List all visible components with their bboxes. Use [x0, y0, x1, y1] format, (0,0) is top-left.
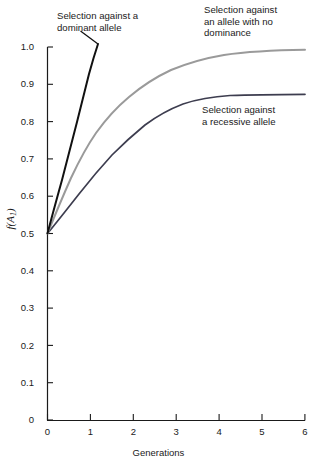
- y-tick-label-0.9: 0.9: [8, 79, 34, 89]
- x-tick-label-6: 6: [296, 427, 314, 437]
- figure-container: 1.0 0.9 0.8 0.7 0.6 0.5 0.4 0.3 0.2 0.1 …: [0, 0, 317, 469]
- x-tick-label-2: 2: [124, 427, 142, 437]
- x-axis-title: Generations: [0, 447, 317, 458]
- x-tick-label-1: 1: [81, 427, 99, 437]
- curve-dominant: [48, 44, 99, 234]
- y-tick-label-0.4: 0.4: [8, 266, 34, 276]
- annotation-dominant-allele: Selection against a dominant allele: [57, 10, 177, 33]
- x-axis-ticks: [48, 414, 305, 421]
- y-axis-title-close: ): [4, 208, 16, 212]
- y-axis-title-f: f: [4, 227, 16, 230]
- y-tick-label-0.2: 0.2: [8, 341, 34, 351]
- y-tick-label-1.0: 1.0: [8, 42, 34, 52]
- x-tick-label-4: 4: [210, 427, 228, 437]
- x-tick-label-5: 5: [253, 427, 271, 437]
- chart-canvas: [0, 0, 317, 469]
- annotation-no-dominance: Selection against an allele with no domi…: [204, 4, 316, 39]
- x-tick-label-0: 0: [39, 427, 57, 437]
- y-axis-title-subscript: 1: [9, 212, 18, 216]
- y-tick-label-0.1: 0.1: [8, 378, 34, 388]
- y-tick-label-0: 0: [8, 415, 34, 425]
- curve-no-dominance: [48, 50, 306, 234]
- x-tick-label-3: 3: [167, 427, 185, 437]
- y-axis-title-open: (A: [4, 216, 16, 226]
- y-tick-label-0.3: 0.3: [8, 303, 34, 313]
- y-axis-title: f(A1): [4, 189, 18, 249]
- y-tick-label-0.8: 0.8: [8, 117, 34, 127]
- annotation-recessive-allele: Selection against a recessive allele: [202, 104, 316, 127]
- y-tick-label-0.7: 0.7: [8, 154, 34, 164]
